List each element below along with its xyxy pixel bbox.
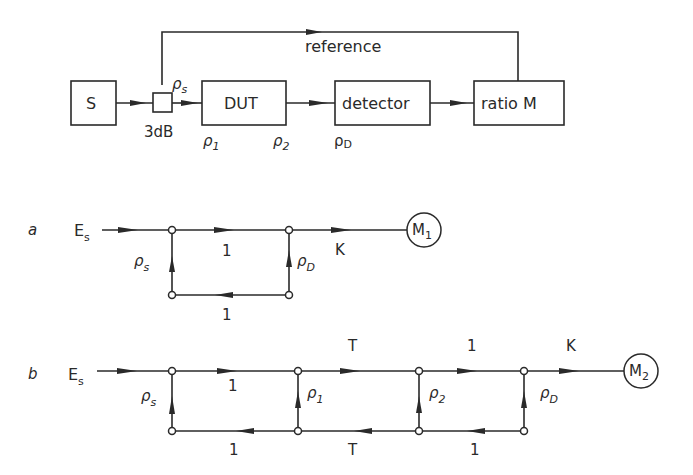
block-diagram: reference S 3dB ρs DUT ρ1 ρ2 detector ρD…: [71, 29, 564, 153]
node: [295, 368, 302, 375]
arrow-icon: [117, 368, 137, 374]
rho-1-label: ρ1: [203, 132, 220, 153]
top-branch-gain-K: K: [566, 337, 577, 355]
signal-flow-figure: reference S 3dB ρs DUT ρ1 ρ2 detector ρD…: [0, 0, 693, 475]
source-es-label: Es: [74, 221, 90, 244]
arrow-icon: [309, 100, 328, 106]
arrow-icon: [215, 292, 233, 298]
rho-D-label: ρD: [334, 132, 352, 151]
signal-flow-graph-a: a Es 1 1 K ρs ρD M1: [28, 213, 441, 324]
rho-s-label: ρs: [172, 75, 188, 96]
arrow-icon: [169, 256, 175, 272]
rho-D-branch-label: ρD: [297, 252, 315, 274]
signal-flow-graph-b: b Es 1 T 1 K 1 T 1 ρs ρ: [28, 337, 658, 459]
node: [295, 428, 302, 435]
graph-a-label: a: [28, 221, 37, 239]
node: [169, 292, 176, 299]
graph-b-label: b: [28, 365, 38, 383]
rho-2-label: ρ2: [273, 132, 290, 153]
bottom-branch-gain-1: 1: [229, 441, 239, 459]
rho-s-branch-label: ρs: [141, 387, 157, 409]
arrow-icon: [130, 100, 146, 106]
reference-label: reference: [305, 37, 381, 56]
source-label: S: [86, 94, 96, 113]
k-branch-gain: K: [335, 241, 346, 259]
arrow-icon: [467, 428, 485, 434]
top-branch-gain-T: T: [347, 337, 358, 355]
bottom-branch-gain-T: T: [347, 441, 358, 459]
arrow-icon: [416, 396, 422, 413]
bottom-branch-gain-2: 1: [470, 441, 480, 459]
node: [169, 227, 176, 234]
arrow-icon: [331, 227, 351, 233]
arrow-icon: [354, 428, 372, 434]
node: [286, 227, 293, 234]
arrow-icon: [236, 428, 254, 434]
node: [169, 428, 176, 435]
arrow-icon: [521, 391, 527, 408]
arrow-icon: [286, 250, 292, 267]
arrow-icon: [559, 368, 579, 374]
node: [521, 428, 528, 435]
top-branch-gain: 1: [222, 242, 232, 260]
ratio-label: ratio M: [481, 94, 537, 113]
arrow-icon: [340, 368, 360, 374]
rho-s-branch-label: ρs: [134, 252, 150, 274]
detector-label: detector: [342, 94, 410, 113]
arrow-icon: [457, 368, 477, 374]
node: [416, 428, 423, 435]
arrow-icon: [217, 368, 237, 374]
top-branch-gain-1: 1: [228, 377, 238, 395]
node: [169, 368, 176, 375]
top-branch-gain-2: 1: [467, 337, 477, 355]
arrow-icon: [295, 391, 301, 408]
node: [286, 292, 293, 299]
arrow-icon: [169, 396, 175, 414]
reference-arrow-icon: [306, 29, 322, 35]
node: [521, 368, 528, 375]
arrow-icon: [181, 100, 198, 106]
coupler-label: 3dB: [144, 123, 173, 141]
source-es-label: Es: [68, 365, 84, 388]
arrow-icon: [214, 227, 234, 233]
rho-2-branch-label: ρ2: [429, 384, 446, 406]
node: [416, 368, 423, 375]
rho-1-branch-label: ρ1: [307, 384, 324, 406]
coupler-3db: [153, 93, 172, 112]
dut-label: DUT: [224, 94, 258, 113]
arrow-icon: [118, 227, 138, 233]
bottom-branch-gain: 1: [222, 306, 232, 324]
arrow-icon: [450, 100, 467, 106]
rho-D-branch-label: ρD: [540, 384, 558, 406]
